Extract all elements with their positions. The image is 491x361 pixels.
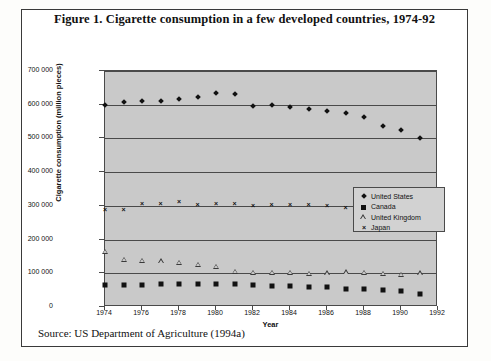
data-point-triangle xyxy=(306,271,312,276)
triangle-marker xyxy=(359,212,371,222)
legend-item: United Kingdom xyxy=(359,212,444,222)
legend-item-label: Canada xyxy=(371,203,396,210)
y-axis-tick-label: 300 000 xyxy=(0,201,53,208)
gridline xyxy=(105,240,436,241)
data-point-diamond xyxy=(232,91,238,97)
data-point-square xyxy=(232,282,237,287)
triangle-inner xyxy=(177,261,181,264)
y-axis-label: Cigarette consumption (million pieces) xyxy=(54,33,63,233)
data-point-cross: × xyxy=(232,201,238,207)
y-axis-tick-label: 400 000 xyxy=(0,167,53,174)
triangle-inner xyxy=(381,272,385,275)
x-axis-tick-mark xyxy=(141,306,142,310)
legend-item: ×Japan xyxy=(359,223,444,233)
data-point-triangle xyxy=(158,258,164,263)
data-point-triangle xyxy=(361,270,367,275)
data-point-square xyxy=(325,285,330,290)
triangle-inner xyxy=(325,272,329,275)
data-point-cross: × xyxy=(176,199,182,205)
x-axis-tick-mark xyxy=(363,306,364,310)
data-point-cross: × xyxy=(287,202,293,208)
triangle-inner xyxy=(418,272,422,275)
x-axis-tick-mark xyxy=(437,306,438,310)
data-point-diamond xyxy=(287,105,293,111)
triangle-inner xyxy=(122,258,126,261)
data-point-triangle xyxy=(102,249,108,254)
data-point-triangle xyxy=(139,258,145,263)
data-point-square xyxy=(380,288,385,293)
data-point-triangle xyxy=(250,270,256,275)
x-axis-tick-label: 1982 xyxy=(232,309,272,316)
data-point-square xyxy=(288,284,293,289)
data-point-triangle xyxy=(287,270,293,275)
x-axis-tick-label: 1988 xyxy=(343,309,383,316)
data-point-square xyxy=(195,282,200,287)
data-point-square xyxy=(343,286,348,291)
x-axis-tick-label: 1980 xyxy=(195,309,235,316)
triangle-inner xyxy=(214,265,218,268)
data-point-diamond xyxy=(417,136,423,142)
x-axis-tick-label: 1974 xyxy=(84,309,124,316)
data-point-square xyxy=(177,282,182,287)
x-axis-tick-mark xyxy=(178,306,179,310)
triangle-inner xyxy=(270,271,274,274)
data-point-cross: × xyxy=(158,201,164,207)
data-point-cross: × xyxy=(102,207,108,213)
data-point-triangle xyxy=(324,270,330,275)
x-axis-tick-label: 1992 xyxy=(417,309,457,316)
triangle-inner xyxy=(307,272,311,275)
x-axis-tick-label: 1984 xyxy=(269,309,309,316)
legend-item-label: United States xyxy=(371,193,413,200)
data-point-square xyxy=(103,283,108,288)
data-point-triangle xyxy=(213,264,219,269)
x-axis-tick-mark xyxy=(326,306,327,310)
gridline xyxy=(105,71,436,72)
y-axis-tick-label: 0 xyxy=(0,302,53,309)
data-point-square xyxy=(140,282,145,287)
data-point-diamond xyxy=(380,123,386,129)
x-axis-tick-mark xyxy=(104,306,105,310)
x-axis-tick-mark xyxy=(289,306,290,310)
data-point-triangle xyxy=(343,269,349,274)
data-point-cross: × xyxy=(213,201,219,207)
data-point-diamond xyxy=(102,102,108,108)
y-axis-tick-label: 600 000 xyxy=(0,100,53,107)
data-point-diamond xyxy=(269,102,275,108)
data-point-square xyxy=(269,284,274,289)
data-point-cross: × xyxy=(343,205,349,211)
data-point-diamond xyxy=(213,90,219,96)
y-axis-tick-label: 500 000 xyxy=(0,133,53,140)
chart-legend: United StatesCanadaUnited Kingdom×Japan xyxy=(353,187,445,232)
diamond-marker xyxy=(359,191,371,201)
triangle-marker-glyph xyxy=(360,214,366,219)
y-axis-tick-label: 700 000 xyxy=(0,66,53,73)
data-point-diamond xyxy=(343,111,349,117)
data-point-triangle xyxy=(269,270,275,275)
legend-item: United States xyxy=(359,191,444,201)
data-point-diamond xyxy=(306,106,312,112)
data-point-diamond xyxy=(361,114,367,120)
data-point-diamond xyxy=(139,98,145,104)
data-point-square xyxy=(158,282,163,287)
triangle-inner xyxy=(140,259,144,262)
square-marker xyxy=(359,202,371,212)
data-point-cross: × xyxy=(121,207,127,213)
triangle-inner xyxy=(288,271,292,274)
triangle-inner xyxy=(159,260,163,263)
data-point-cross: × xyxy=(139,201,145,207)
data-point-cross: × xyxy=(324,203,330,209)
x-axis-tick-label: 1976 xyxy=(121,309,161,316)
data-point-square xyxy=(362,287,367,292)
x-axis-tick-mark xyxy=(400,306,401,310)
data-point-triangle xyxy=(176,260,182,265)
data-point-square xyxy=(214,281,219,286)
data-point-square xyxy=(121,283,126,288)
data-point-cross: × xyxy=(250,203,256,209)
legend-item-label: Japan xyxy=(371,224,390,231)
data-point-square xyxy=(417,291,422,296)
plot-area: ×××××××××××××××××× United StatesCanadaUn… xyxy=(104,70,437,306)
diamond-marker-glyph xyxy=(361,193,367,199)
data-point-cross: × xyxy=(306,202,312,208)
triangle-inner xyxy=(362,271,366,274)
data-point-diamond xyxy=(158,98,164,104)
